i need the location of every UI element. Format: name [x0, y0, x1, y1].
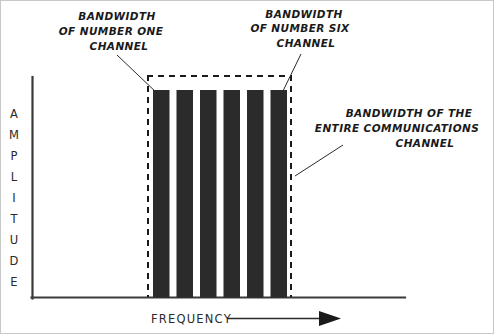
y-axis-label-letter: U	[10, 233, 18, 247]
channel-bars-group	[153, 90, 287, 298]
channel-bar-3	[200, 90, 217, 298]
y-axis-label-letter: E	[10, 275, 17, 289]
channel-bar-6	[271, 90, 288, 298]
channel-bar-4	[224, 90, 241, 298]
y-axis-label: A M P L I T U D E	[9, 107, 19, 289]
annotation-channel-six-line-3: CHANNEL	[277, 37, 336, 49]
x-axis-label: FREQUENCY	[151, 312, 232, 326]
channel-bar-1	[153, 90, 170, 298]
annotation-channel-one-line-2: OF NUMBER ONE	[59, 25, 164, 37]
arrow-right-icon	[319, 311, 341, 326]
diagram-canvas: A M P L I T U D E	[0, 0, 494, 334]
channel-bar-2	[177, 90, 194, 298]
leader-line-entire-channel	[295, 145, 343, 176]
annotation-channel-six: BANDWIDTH OF NUMBER SIX CHANNEL	[250, 8, 350, 49]
y-axis-label-letter: M	[9, 128, 19, 142]
y-axis-label-letter: T	[9, 212, 18, 226]
y-axis-label-letter: P	[11, 149, 18, 163]
annotation-channel-six-line-2: OF NUMBER SIX	[250, 22, 350, 34]
annotation-channel-six-line-1: BANDWIDTH	[265, 8, 342, 20]
y-axis-label-letter: I	[12, 191, 15, 205]
annotation-channel-one: BANDWIDTH OF NUMBER ONE CHANNEL	[59, 10, 164, 52]
channel-bar-5	[247, 90, 264, 298]
y-axis-label-letter: D	[10, 254, 19, 268]
y-axis-label-letter: A	[10, 107, 18, 121]
annotation-channel-one-line-3: CHANNEL	[90, 40, 149, 52]
x-axis-label-group: FREQUENCY	[151, 311, 341, 326]
leader-line-channel-one	[117, 55, 158, 94]
y-axis-label-letter: L	[11, 170, 18, 184]
bandwidth-diagram: A M P L I T U D E	[1, 1, 494, 334]
annotation-entire-channel-line-3: CHANNEL	[396, 137, 455, 149]
annotation-entire-channel-line-1: BANDWIDTH OF THE	[346, 107, 473, 119]
annotation-entire-channel-line-2: ENTIRE COMMUNICATIONS	[315, 122, 479, 134]
annotation-channel-one-line-1: BANDWIDTH	[78, 10, 155, 22]
annotation-entire-channel: BANDWIDTH OF THE ENTIRE COMMUNICATIONS C…	[315, 107, 479, 149]
